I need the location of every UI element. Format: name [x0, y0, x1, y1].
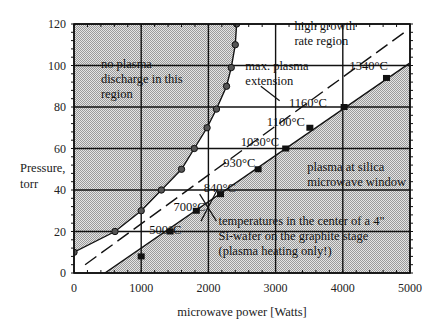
circle-marker — [204, 125, 210, 131]
chart: 010002000300040005000020406080100120micr… — [0, 0, 443, 335]
region-label: discharge in this — [101, 72, 183, 86]
circle-marker — [232, 42, 238, 48]
temperature-label: 500°C — [149, 223, 181, 237]
pointer-line — [261, 86, 280, 101]
temperature-label: 1030°C — [241, 135, 279, 149]
region-label: Si-wafer on the graphite stage — [218, 229, 368, 243]
temperature-label: 840°C — [204, 181, 236, 195]
temperature-label: 1160°C — [289, 96, 327, 110]
x-tick-label: 3000 — [264, 281, 288, 295]
x-tick-label: 0 — [71, 281, 77, 295]
temperature-label: 930°C — [223, 156, 255, 170]
region-label: no plasma — [101, 57, 152, 71]
temperature-label: 1100°C — [267, 115, 305, 129]
x-tick-label: 4000 — [331, 281, 355, 295]
y-tick-label: 120 — [48, 17, 66, 31]
region-label: (plasma heating only!) — [218, 244, 331, 258]
region-label: region — [101, 87, 134, 101]
temperature-label: 1340°C — [350, 59, 388, 73]
temperature-label: 700°C — [173, 200, 205, 214]
y-tick-label: 60 — [54, 142, 66, 156]
region-label: temperatures in the center of a 4" — [218, 214, 384, 228]
region-label: high growth — [294, 19, 356, 33]
x-tick-label: 2000 — [196, 281, 220, 295]
x-tick-label: 5000 — [398, 281, 422, 295]
y-tick-label: 40 — [54, 183, 66, 197]
y-tick-label: 80 — [54, 100, 66, 114]
square-marker — [138, 253, 145, 259]
region-label: plasma at silica — [307, 160, 385, 174]
region-label: max. plasma — [245, 59, 309, 73]
y-axis-title: torr — [20, 177, 39, 191]
circle-marker — [158, 187, 164, 193]
circle-marker — [223, 83, 229, 89]
circle-marker — [178, 166, 184, 172]
circle-marker — [191, 145, 197, 151]
circle-marker — [112, 228, 118, 234]
region-label: rate region — [294, 34, 349, 48]
circle-marker — [213, 106, 219, 112]
x-tick-label: 1000 — [129, 281, 153, 295]
circle-marker — [138, 208, 144, 214]
y-tick-label: 0 — [60, 266, 66, 280]
y-axis-title: Pressure, — [20, 161, 65, 175]
y-tick-label: 20 — [54, 225, 66, 239]
region-label: microwave window — [307, 175, 406, 189]
region-label: extension — [245, 74, 294, 88]
circle-marker — [228, 64, 234, 70]
x-axis-title: microwave power [Watts] — [177, 305, 307, 319]
y-tick-label: 100 — [48, 59, 66, 73]
